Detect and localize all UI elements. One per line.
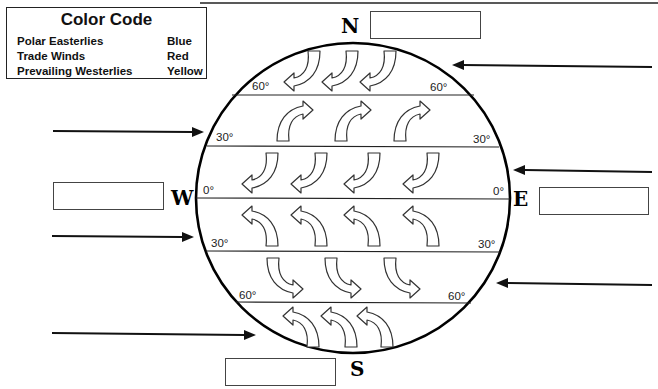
lat-label-30n-right: 30° bbox=[473, 134, 490, 146]
label-box-south[interactable] bbox=[225, 358, 336, 386]
wind-arrow-polar-n bbox=[322, 51, 358, 91]
legend-color-name: Blue bbox=[167, 35, 192, 47]
global-winds-diagram: Color Code Polar Easterlies Blue Trade W… bbox=[0, 0, 658, 389]
lat-30s-line bbox=[206, 251, 500, 252]
lat-label-60s-left: 60° bbox=[239, 290, 256, 302]
wind-arrow-trade-n bbox=[291, 153, 327, 193]
pointer-arrow-left-1 bbox=[53, 127, 204, 137]
legend-color-name: Red bbox=[167, 50, 189, 62]
wind-arrow-polar-s bbox=[321, 307, 357, 347]
lat-label-eq-right: 0° bbox=[493, 186, 504, 198]
wind-arrow-westerly-n bbox=[335, 101, 371, 141]
wind-arrow-trade-s bbox=[242, 206, 278, 246]
compass-south: S bbox=[350, 359, 364, 379]
pointer-arrow-right-1 bbox=[452, 60, 652, 70]
lat-label-60s-right: 60° bbox=[448, 291, 465, 303]
pointer-arrow-right-2 bbox=[513, 165, 652, 175]
wind-arrow-polar-s bbox=[357, 307, 393, 347]
wind-arrow-westerly-s bbox=[325, 258, 361, 298]
lat-60s-line bbox=[236, 302, 471, 303]
wind-arrow-trade-s bbox=[291, 206, 327, 246]
wind-arrow-trade-n bbox=[403, 153, 439, 193]
lat-label-30s-right: 30° bbox=[478, 239, 495, 251]
wind-arrow-westerly-n bbox=[394, 101, 430, 141]
wind-arrow-polar-s bbox=[283, 307, 319, 347]
legend-wind-name: Trade Winds bbox=[17, 50, 85, 62]
lat-30n-line bbox=[207, 146, 499, 147]
lat-label-eq-left: 0° bbox=[203, 185, 214, 197]
equator-line bbox=[196, 198, 510, 199]
lat-label-30s-left: 30° bbox=[211, 238, 228, 250]
legend-color-name: Yellow bbox=[167, 65, 203, 77]
pointer-arrow-left-3 bbox=[52, 330, 256, 340]
wind-arrow-polar-n bbox=[360, 51, 396, 91]
label-box-west[interactable] bbox=[53, 182, 164, 210]
compass-east: E bbox=[513, 189, 528, 209]
lat-label-60n-left: 60° bbox=[252, 81, 269, 93]
wind-arrow-westerly-s bbox=[267, 258, 303, 298]
wind-arrow-trade-s bbox=[403, 206, 439, 246]
legend-wind-name: Polar Easterlies bbox=[17, 35, 103, 47]
compass-north: N bbox=[341, 16, 359, 36]
wind-arrow-trade-n bbox=[242, 153, 278, 193]
lat-label-30n-left: 30° bbox=[216, 132, 233, 144]
label-box-north[interactable] bbox=[370, 11, 481, 39]
legend-wind-name: Prevailing Westerlies bbox=[17, 65, 132, 77]
label-box-east[interactable] bbox=[539, 187, 649, 215]
compass-west: W bbox=[171, 188, 193, 208]
wind-arrow-westerly-s bbox=[384, 258, 420, 298]
wind-arrow-trade-s bbox=[344, 206, 380, 246]
pointer-arrow-right-3 bbox=[496, 278, 652, 288]
pointer-arrow-left-2 bbox=[52, 232, 194, 242]
wind-arrow-westerly-n bbox=[277, 101, 313, 141]
color-code-legend: Color Code Polar Easterlies Blue Trade W… bbox=[6, 7, 207, 79]
legend-title: Color Code bbox=[7, 10, 206, 30]
lat-label-60n-right: 60° bbox=[430, 82, 447, 94]
wind-arrow-trade-n bbox=[344, 153, 380, 193]
